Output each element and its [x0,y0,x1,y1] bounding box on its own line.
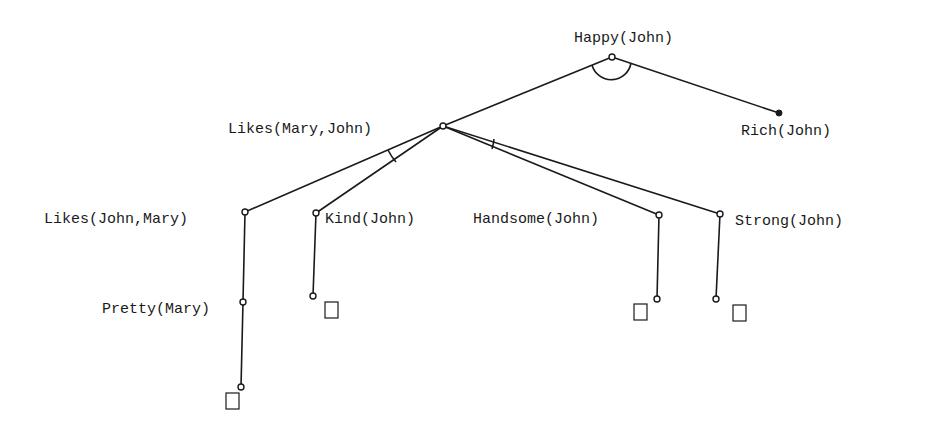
edge-happy-rich [612,57,779,113]
node-likes-mary-john[interactable] [440,123,446,129]
node-likes-john-mary[interactable] [242,209,248,215]
label-pretty-mary: Pretty(Mary) [102,301,210,318]
edge-pretty-leaf [241,302,243,387]
empty-box-icon [226,393,239,409]
edge-likes-mj-strong [443,126,720,214]
label-likes-john-mary: Likes(John,Mary) [44,211,188,228]
label-handsome-john: Handsome(John) [473,211,599,228]
edge-likes-mj-likes-jm [245,126,443,212]
edge-kind-leaf [313,213,316,296]
empty-box-icon [634,304,647,320]
and-arc-happy [592,63,631,80]
label-likes-mary-john: Likes(Mary,John) [228,121,372,138]
empty-box-icon [733,305,746,321]
edge-likes-jm-pretty [243,212,245,302]
node-rich-john[interactable] [776,110,782,116]
node-pretty-mary[interactable] [240,299,246,305]
node-handsome-leaf [654,296,660,302]
label-kind-john: Kind(John) [325,211,415,228]
node-happy-john[interactable] [609,54,615,60]
edge-likes-mj-kind [316,126,443,213]
empty-box-icon [325,302,338,318]
label-strong-john: Strong(John) [735,213,843,230]
label-rich-john: Rich(John) [741,123,831,140]
edge-strong-leaf [716,214,720,299]
node-kind-john[interactable] [313,210,319,216]
node-strong-leaf [713,296,719,302]
node-pretty-leaf [238,384,244,390]
label-happy-john: Happy(John) [574,30,673,47]
node-strong-john[interactable] [717,211,723,217]
and-or-tree-diagram: Happy(John) Rich(John) Likes(Mary,John) … [0,0,926,441]
edge-handsome-leaf [657,215,659,299]
edge-happy-likes-mary-john [443,57,612,126]
edge-likes-mj-handsome [443,126,659,215]
node-handsome-john[interactable] [656,212,662,218]
node-kind-leaf [310,293,316,299]
leaf-boxes [226,302,746,409]
labels: Happy(John) Rich(John) Likes(Mary,John) … [44,30,843,318]
